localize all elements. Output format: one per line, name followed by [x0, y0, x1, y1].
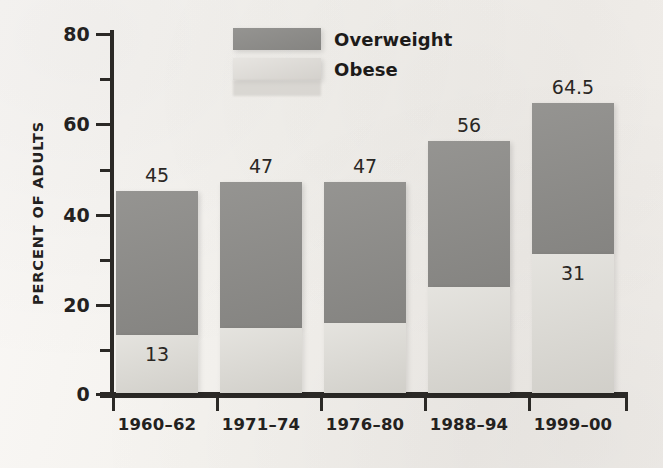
bar-segment-overweight: [116, 191, 198, 335]
legend-label-obese: Obese: [334, 59, 398, 80]
total-value-label-3: 47: [324, 155, 406, 177]
plot-area: PERCENT OF ADULTS 80 60 40 20 0: [0, 0, 663, 468]
x-tick-0: [112, 398, 115, 411]
total-value-label-2: 47: [220, 155, 302, 177]
obese-value-label-1: 13: [116, 343, 198, 365]
x-tick-5: [625, 398, 628, 411]
bar-group-5: 31: [532, 103, 614, 393]
total-value-label-5: 64.5: [532, 76, 614, 98]
y-axis-label-0: 0: [46, 383, 90, 405]
x-axis-label-2: 1971–74: [206, 415, 316, 434]
bar-group-4: [428, 141, 510, 393]
y-tick-minor-30: [100, 259, 113, 262]
bar-segment-overweight: [324, 182, 406, 324]
x-tick-1: [216, 398, 219, 411]
bar-group-2: [220, 182, 302, 394]
bar-segment-obese: [220, 328, 302, 393]
x-axis-label-5: 1999–00: [518, 415, 628, 434]
x-tick-4: [528, 398, 531, 411]
y-tick-60: [96, 123, 113, 126]
bar-segment-overweight: [220, 182, 302, 328]
x-axis-label-3: 1976–80: [310, 415, 420, 434]
y-axis-label-40: 40: [46, 204, 90, 226]
x-tick-3: [424, 398, 427, 411]
x-axis-label-1: 1960–62: [102, 415, 212, 434]
legend-label-overweight: Overweight: [334, 29, 452, 50]
y-axis-label-20: 20: [46, 294, 90, 316]
bar-group-3: [324, 182, 406, 394]
y-axis-label-80: 80: [46, 23, 90, 45]
bar-group-1: 13: [116, 191, 198, 394]
x-tick-2: [320, 398, 323, 411]
y-tick-0: [96, 393, 113, 396]
y-axis-label-60: 60: [46, 113, 90, 135]
y-tick-80: [96, 33, 113, 36]
obese-value-label-5: 31: [532, 262, 614, 284]
stacked-bar-chart: PERCENT OF ADULTS 80 60 40 20 0: [0, 0, 663, 468]
bar-segment-obese: [324, 323, 406, 393]
total-value-label-1: 45: [116, 164, 198, 186]
bar-segment-obese: [428, 287, 510, 393]
y-tick-minor-10: [100, 349, 113, 352]
y-tick-minor-50: [100, 169, 113, 172]
y-tick-20: [96, 304, 113, 307]
y-tick-minor-70: [100, 78, 113, 81]
legend-swatch-shadow: [233, 80, 321, 96]
legend-swatch-obese: [233, 58, 321, 80]
legend-swatch-overweight: [233, 28, 321, 50]
bar-segment-overweight: [428, 141, 510, 287]
y-tick-40: [96, 214, 113, 217]
total-value-label-4: 56: [428, 114, 510, 136]
x-axis-label-4: 1988–94: [414, 415, 524, 434]
bar-segment-overweight: [532, 103, 614, 254]
